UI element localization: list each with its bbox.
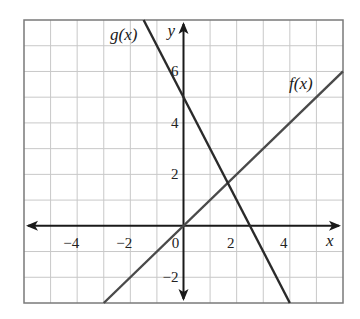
x-tick-label: 0 <box>172 235 180 251</box>
series-line-fx <box>104 71 343 303</box>
x-tick-label: 4 <box>280 235 288 251</box>
y-tick-label: 4 <box>171 115 179 131</box>
y-tick-label: −2 <box>163 269 179 285</box>
x-tick-label: −4 <box>63 235 79 251</box>
series-line-gx <box>144 20 290 303</box>
x-tick-label: 2 <box>227 235 235 251</box>
function-graph: −4−2024642−2 x y g(x) f(x) <box>0 0 360 319</box>
g-of-x-label: g(x) <box>110 25 138 44</box>
y-axis-label: y <box>166 21 176 40</box>
series-lines <box>104 20 343 303</box>
x-tick-label: −2 <box>116 235 132 251</box>
y-tick-label: 2 <box>171 166 179 182</box>
axes <box>26 22 341 301</box>
f-of-x-label: f(x) <box>289 74 313 93</box>
y-tick-label: 6 <box>171 63 179 79</box>
x-axis-label: x <box>325 231 334 250</box>
